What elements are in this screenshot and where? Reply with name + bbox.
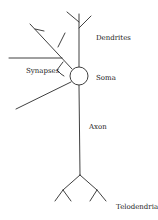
telodendria-right-sub-right	[97, 190, 106, 201]
label-soma: Soma	[96, 75, 116, 82]
neuron-diagram: Dendrites Synapses Soma Axon Telodendria	[0, 0, 158, 220]
label-synapses: Synapses	[26, 68, 59, 75]
soma-circle	[70, 67, 88, 85]
diagonal-dendrite-side-branch	[58, 33, 65, 47]
telodendria-right-branch	[80, 175, 97, 190]
axon-line	[79, 85, 80, 175]
telodendria-left-branch	[63, 175, 80, 190]
label-telodendria: Telodendria	[116, 204, 158, 211]
diagonal-dendrite	[30, 24, 72, 69]
lower-left-dendrite	[16, 82, 71, 109]
top-dendrite-left-branch	[67, 12, 79, 22]
neuron-drawing	[0, 0, 158, 220]
label-axon: Axon	[89, 124, 107, 131]
label-dendrites: Dendrites	[96, 35, 131, 42]
telodendria-right-sub-left	[90, 190, 97, 201]
telodendria-left-sub-left	[55, 190, 63, 201]
top-dendrite-right-branch	[79, 16, 91, 28]
telodendria-left-sub-right	[63, 190, 71, 201]
